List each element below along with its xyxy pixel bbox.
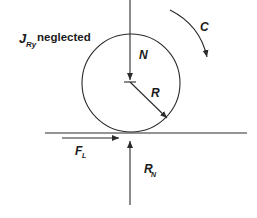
radius-arrow — [130, 82, 167, 118]
radius-label: R — [151, 86, 160, 100]
svg-text:Ry: Ry — [26, 40, 37, 49]
svg-text:L: L — [82, 152, 86, 159]
free-body-diagram: J Ry neglected N R C F L R N — [0, 0, 257, 218]
friction-label: F L — [75, 144, 86, 159]
inertia-label: J Ry neglected — [19, 31, 91, 49]
couple-label: C — [200, 20, 209, 34]
normal-load-label: N — [139, 48, 148, 62]
svg-text:N: N — [151, 171, 157, 178]
reaction-label: R N — [144, 162, 157, 178]
svg-text:neglected: neglected — [37, 31, 91, 43]
